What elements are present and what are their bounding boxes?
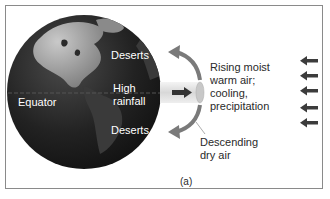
label-rainfall: rainfall: [113, 95, 145, 107]
arrow-left-icon: [300, 118, 318, 128]
incoming-arrows: [300, 56, 318, 128]
curved-arrow-up-icon: [168, 45, 200, 80]
label-deserts-south: Deserts: [111, 124, 149, 136]
globe: [7, 15, 161, 169]
label-deserts-north: Deserts: [111, 49, 149, 61]
air-column: [160, 82, 204, 103]
descending-air-line-1: Descending: [200, 136, 258, 148]
arrow-left-icon: [300, 71, 318, 81]
arrow-left-icon: [300, 103, 318, 113]
label-high: High: [113, 82, 136, 94]
rising-air-line-4: precipitation: [210, 100, 269, 112]
descending-air-line-2: dry air: [200, 149, 231, 161]
leader-line: [196, 122, 205, 134]
rising-air-line-2: warm air;: [210, 74, 255, 86]
curved-arrow-down-icon: [168, 105, 200, 139]
panel-label: (a): [180, 176, 192, 188]
label-equator: Equator: [18, 96, 57, 108]
rising-air-line-1: Rising moist: [210, 61, 270, 73]
rising-air-line-3: cooling,: [210, 87, 248, 99]
arrow-left-icon: [300, 56, 318, 66]
arrow-left-icon: [300, 86, 318, 96]
